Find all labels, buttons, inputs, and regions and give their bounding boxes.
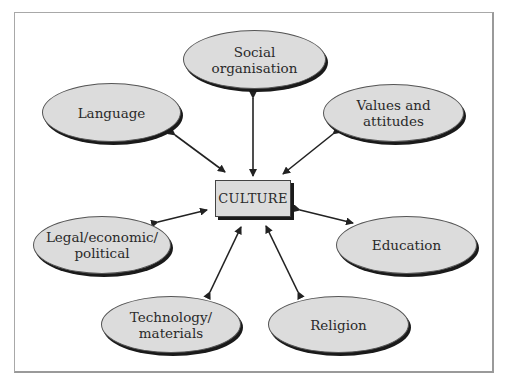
node-language: Language <box>42 83 181 142</box>
node-religion: Religion <box>268 296 409 353</box>
arrow-religion <box>266 226 298 292</box>
node-education: Education <box>336 216 477 274</box>
node-values-and-attitudes: Values and attitudes <box>323 84 464 142</box>
node-social-organisation: Social organisation <box>183 30 326 89</box>
center-label: CULTURE <box>218 191 287 207</box>
arrow-legal <box>158 210 207 222</box>
node-culture: CULTURE <box>215 180 291 217</box>
node-label: Legal/economic/ political <box>46 229 158 261</box>
node-technology-materials: Technology/ materials <box>101 296 241 353</box>
node-label: Social organisation <box>212 44 298 76</box>
node-label: Language <box>78 105 146 121</box>
node-label: Values and attitudes <box>356 97 430 129</box>
node-legal-economic-political: Legal/economic/ political <box>33 216 171 274</box>
node-label: Education <box>372 237 441 253</box>
arrow-values <box>283 134 333 174</box>
arrow-technology <box>210 227 241 292</box>
arrow-language <box>175 135 225 172</box>
arrow-education <box>300 210 353 223</box>
node-label: Religion <box>310 317 367 333</box>
node-label: Technology/ materials <box>130 309 212 341</box>
